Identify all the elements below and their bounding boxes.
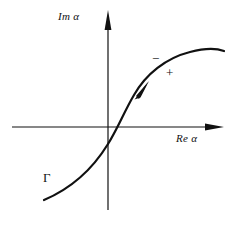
contour-gamma-curve xyxy=(44,49,224,200)
figure-canvas xyxy=(0,0,237,230)
y-axis-arrowhead xyxy=(105,10,112,30)
im-axis-label: Im α xyxy=(58,10,79,22)
contour-group xyxy=(44,49,224,200)
re-axis-label: Re α xyxy=(176,132,197,144)
minus-sign-label: − xyxy=(152,52,159,65)
plus-sign-label: + xyxy=(166,66,173,79)
x-axis-arrowhead xyxy=(205,123,224,130)
contour-gamma-label: Γ xyxy=(43,170,51,186)
complex-plane-figure: Im α Re α Γ − + xyxy=(0,0,237,230)
